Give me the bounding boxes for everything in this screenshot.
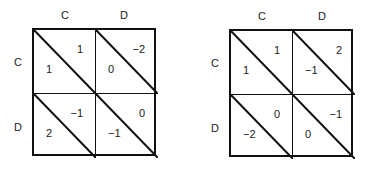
payoff-column-player: 0 bbox=[139, 108, 145, 119]
cell-dc: 0 −2 bbox=[231, 94, 293, 158]
payoff-matrix-1: C D C D 1 1 −2 0 −1 2 0 −1 bbox=[0, 0, 184, 169]
payoff-grid: 1 1 −2 0 −1 2 0 −1 bbox=[32, 28, 156, 156]
payoff-column-player: −1 bbox=[70, 108, 83, 119]
diagonal-divider bbox=[96, 94, 158, 158]
cell-dd: 0 −1 bbox=[95, 93, 157, 157]
column-label-c: C bbox=[61, 10, 69, 21]
payoff-row-player: 0 bbox=[108, 64, 114, 75]
diagonal-divider bbox=[293, 95, 355, 159]
payoff-column-player: −1 bbox=[329, 109, 342, 120]
payoff-column-player: −2 bbox=[132, 44, 145, 55]
cell-cd: −2 0 bbox=[95, 30, 157, 94]
payoff-column-player: 1 bbox=[274, 45, 280, 56]
diagonal-divider bbox=[34, 94, 96, 158]
diagonal-divider bbox=[96, 30, 158, 94]
row-label-c: C bbox=[14, 57, 22, 68]
payoff-grid: 1 1 2 −1 0 −2 −1 0 bbox=[229, 29, 353, 157]
payoff-column-player: 1 bbox=[77, 44, 83, 55]
payoff-column-player: 2 bbox=[336, 45, 342, 56]
payoff-row-player: −1 bbox=[305, 65, 318, 76]
cell-dc: −1 2 bbox=[34, 93, 96, 157]
cell-cc: 1 1 bbox=[34, 30, 96, 94]
column-label-c: C bbox=[258, 11, 266, 22]
row-label-c: C bbox=[211, 58, 219, 69]
payoff-row-player: −2 bbox=[243, 129, 256, 140]
payoff-row-player: 0 bbox=[305, 129, 311, 140]
payoff-column-player: 0 bbox=[274, 109, 280, 120]
column-label-d: D bbox=[318, 11, 326, 22]
diagonal-divider bbox=[231, 95, 293, 159]
cell-cc: 1 1 bbox=[231, 31, 293, 95]
payoff-row-player: 2 bbox=[46, 128, 52, 139]
diagonal-divider bbox=[231, 31, 293, 95]
row-label-d: D bbox=[211, 123, 219, 134]
payoff-row-player: 1 bbox=[243, 65, 249, 76]
column-label-d: D bbox=[120, 10, 128, 21]
payoff-row-player: 1 bbox=[46, 64, 52, 75]
payoff-matrix-2: C D C D 1 1 2 −1 0 −2 −1 0 bbox=[184, 0, 368, 169]
cell-dd: −1 0 bbox=[292, 94, 354, 158]
payoff-row-player: −1 bbox=[108, 128, 121, 139]
diagonal-divider bbox=[34, 30, 96, 94]
cell-cd: 2 −1 bbox=[292, 31, 354, 95]
diagonal-divider bbox=[293, 31, 355, 95]
row-label-d: D bbox=[14, 122, 22, 133]
